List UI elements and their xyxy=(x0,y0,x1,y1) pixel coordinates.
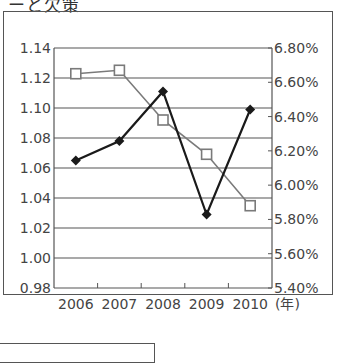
left-tick-label: 1.02 xyxy=(20,220,51,236)
x-axis-labels: 20062007200820092010(年) xyxy=(58,296,300,312)
right-axis-labels: 6.80%6.60%6.40%6.20%6.00%5.80%5.60%5.40% xyxy=(274,40,318,296)
x-unit-label: (年) xyxy=(275,296,300,312)
gridlines xyxy=(54,48,272,288)
diamond-marker-icon xyxy=(71,156,81,166)
square-marker-icon xyxy=(202,149,212,159)
square-marker-icon xyxy=(71,69,81,79)
diamond-marker-icon xyxy=(245,105,255,115)
left-tick-label: 0.98 xyxy=(20,280,51,296)
right-tick-label: 6.80% xyxy=(274,40,318,56)
series-black-diamond-line xyxy=(71,87,255,220)
square-marker-icon xyxy=(114,65,124,75)
right-tick-label: 6.00% xyxy=(274,177,318,193)
right-tick-label: 6.60% xyxy=(274,74,318,90)
x-tick-label: 2007 xyxy=(102,296,138,312)
square-marker-icon xyxy=(158,115,168,125)
square-marker-icon xyxy=(245,201,255,211)
right-tick-label: 5.60% xyxy=(274,246,318,262)
right-tick-label: 6.20% xyxy=(274,143,318,159)
left-tick-label: 1.04 xyxy=(20,190,51,206)
left-tick-label: 1.10 xyxy=(20,100,51,116)
right-tick-label: 5.80% xyxy=(274,211,318,227)
left-tick-label: 1.08 xyxy=(20,130,51,146)
diamond-marker-icon xyxy=(202,210,212,220)
left-tick-label: 1.06 xyxy=(20,160,51,176)
left-tick-label: 1.12 xyxy=(20,70,51,86)
left-tick-label: 1.00 xyxy=(20,250,51,266)
left-axis-labels: 1.141.121.101.081.061.041.021.000.98 xyxy=(20,40,51,296)
series-line xyxy=(76,92,250,215)
x-tick-label: 2009 xyxy=(189,296,225,312)
right-tick-label: 5.40% xyxy=(274,280,318,296)
left-tick-label: 1.14 xyxy=(20,40,51,56)
right-tick-label: 6.40% xyxy=(274,109,318,125)
x-tick-label: 2008 xyxy=(145,296,181,312)
x-tick-label: 2006 xyxy=(58,296,94,312)
x-tick-label: 2010 xyxy=(232,296,268,312)
